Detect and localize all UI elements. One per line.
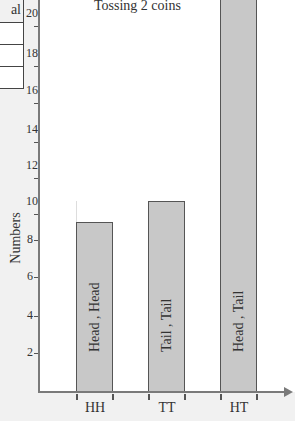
chart-title: Tossing 2 coins [94, 0, 181, 14]
y-tick: 12 [22, 159, 38, 183]
bar-ht: Head , Tail [220, 0, 257, 392]
table-row [0, 44, 23, 66]
partial-table: al [0, 0, 24, 89]
y-tick: 16 [22, 84, 38, 108]
bar-hh: Head , Head [76, 222, 113, 392]
x-axis-arrow-icon [284, 387, 293, 397]
x-axis [38, 391, 286, 393]
x-label-ht: HT [219, 400, 259, 416]
x-label-tt: TT [147, 400, 187, 416]
table-header-cell: al [0, 0, 23, 22]
y-tick: 6 [22, 270, 38, 282]
bar-label: Head , Tail [231, 291, 247, 352]
bar-label: Head , Head [87, 282, 103, 352]
y-tick: 14 [22, 123, 38, 147]
y-tick: 8 [22, 233, 38, 245]
y-tick: 18 [22, 47, 38, 71]
table-row [0, 22, 23, 44]
y-tick: 10 [22, 195, 38, 219]
table-row [0, 66, 23, 88]
y-tick: 20 [22, 7, 38, 31]
y-tick: 2 [22, 346, 38, 358]
y-axis [38, 0, 40, 393]
bar-label: Tail , Tail [159, 299, 175, 352]
x-label-hh: HH [75, 400, 115, 416]
y-tick: 4 [22, 309, 38, 321]
guide-line [76, 201, 77, 222]
bar-tt: Tail , Tail [148, 201, 185, 392]
